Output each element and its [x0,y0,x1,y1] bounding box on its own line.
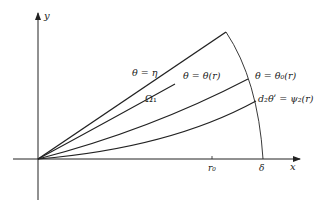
label-theta-eta: θ = η [132,67,158,78]
tick-label-r0: r₀ [208,163,216,173]
theta0-r-curve [38,79,248,159]
label-theta0-r: θ = θ₀(r) [255,70,296,81]
label-psi2: d₂θʹ = ψ₂(r) [258,93,314,104]
theta-eta-line [38,32,226,159]
x-axis-label: x [290,161,296,172]
y-axis-label: y [43,10,50,21]
domain-diagram: y x r₀ δ θ = η Ω₁ θ = θ(r) θ = θ₀(r) d₂θ… [0,0,319,207]
label-theta-r: θ = θ(r) [183,70,221,81]
tick-label-delta: δ [259,163,264,173]
label-omega1: Ω₁ [145,93,157,104]
